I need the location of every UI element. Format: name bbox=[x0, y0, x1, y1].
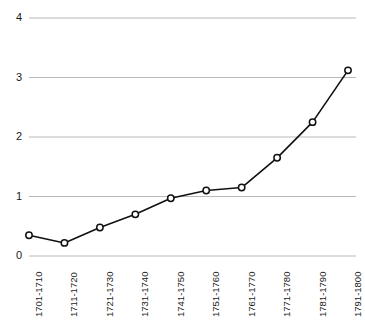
x-axis-tick-label: 1741-1750 bbox=[175, 272, 186, 317]
data-point bbox=[132, 211, 138, 217]
data-point bbox=[97, 224, 103, 230]
data-point bbox=[274, 155, 280, 161]
data-point bbox=[238, 184, 244, 190]
y-axis-tick-label: 1 bbox=[0, 191, 22, 202]
line-chart: 01234 1701-17101711-17201721-17301731-17… bbox=[0, 0, 365, 323]
y-axis-tick-label: 4 bbox=[0, 12, 22, 23]
x-axis-tick-label: 1771-1780 bbox=[281, 272, 292, 317]
gridline-group bbox=[29, 18, 356, 256]
x-axis-tick-label: 1751-1760 bbox=[210, 272, 221, 317]
x-axis-tick-label: 1731-1740 bbox=[139, 272, 150, 317]
data-point bbox=[203, 187, 209, 193]
x-axis-tick-label: 1701-1710 bbox=[33, 272, 44, 317]
data-point bbox=[26, 232, 32, 238]
y-axis-tick-label: 2 bbox=[0, 131, 22, 142]
x-axis-tick-label: 1721-1730 bbox=[104, 272, 115, 317]
y-axis-tick-label: 0 bbox=[0, 250, 22, 261]
data-point bbox=[309, 119, 315, 125]
data-point-group bbox=[26, 67, 351, 246]
data-point bbox=[61, 240, 67, 246]
y-axis-tick-label: 3 bbox=[0, 72, 22, 83]
data-line bbox=[29, 70, 348, 243]
data-point bbox=[345, 67, 351, 73]
x-axis-tick-label: 1791-1800 bbox=[352, 272, 363, 317]
data-point bbox=[168, 195, 174, 201]
x-axis-tick-label: 1761-1770 bbox=[246, 272, 257, 317]
x-axis-tick-label: 1711-1720 bbox=[68, 272, 79, 317]
x-axis-tick-label: 1781-1790 bbox=[317, 272, 328, 317]
